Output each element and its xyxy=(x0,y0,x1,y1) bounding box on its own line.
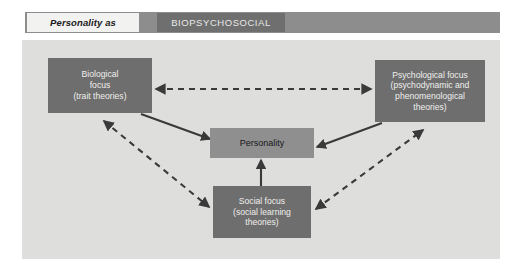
header-title-label: BIOPSYCHOSOCIAL xyxy=(171,17,271,28)
node-biological-line-2: focus xyxy=(73,80,126,91)
node-biological-line-1: Biological xyxy=(73,69,126,80)
node-psychological-line-3: phenomenological xyxy=(391,91,470,102)
node-biological-line-3: (trait theories) xyxy=(73,91,126,102)
header-tag-label: Personality as xyxy=(50,17,116,28)
node-biological-focus[interactable]: Biological focus (trait theories) xyxy=(48,58,152,113)
node-social-focus[interactable]: Social focus (social learning theories) xyxy=(213,186,311,238)
node-psychological-line-2: (psychodynamic and xyxy=(391,80,470,91)
node-social-line-2: (social learning xyxy=(233,207,291,218)
node-psychological-focus[interactable]: Psychological focus (psychodynamic and p… xyxy=(375,60,485,122)
node-personality[interactable]: Personality xyxy=(210,128,314,158)
biopsychosocial-figure: Personality as BIOPSYCHOSOCIAL xyxy=(0,0,524,280)
node-social-line-1: Social focus xyxy=(233,196,291,207)
node-personality-label: Personality xyxy=(240,138,285,148)
node-psychological-line-4: theories) xyxy=(391,102,470,113)
header-title-plate: BIOPSYCHOSOCIAL xyxy=(157,13,285,32)
header-tag: Personality as xyxy=(27,13,139,32)
node-social-line-3: theories) xyxy=(233,217,291,228)
node-psychological-line-1: Psychological focus xyxy=(391,70,470,81)
